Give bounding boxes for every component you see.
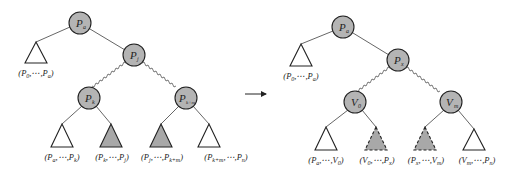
svg-text:0: 0 [358,103,361,109]
node-root: P a [332,16,354,38]
subtree-triangle [25,42,47,63]
spring-edge [406,67,440,92]
subtree-triangle [51,124,73,147]
spring-edge [142,62,176,87]
svg-text:P: P [338,21,346,33]
subtree-label: (Vm,⋯,Pn) [459,155,496,166]
node-right-child: P x [387,49,409,71]
node-right-grandchild: P k+m [175,87,197,109]
subtree-label: (Px,⋯,Vm) [408,155,445,166]
svg-text:P: P [129,49,137,61]
node-left-grandchild: P k [78,87,100,109]
subtree-label: (Pa,⋯,Pk) [45,152,80,163]
svg-text:P: P [178,92,186,104]
node-left-grandchild: V 0 [344,91,366,113]
left-tree: (P0,⋯,Pa) P a P j P k P k+m (Pa,⋯,Pk) (P… [18,12,248,163]
tree-transformation-diagram: (P0,⋯,Pa) P a P j P k P k+m (Pa,⋯,Pk) (P… [0,0,515,175]
svg-text:a: a [346,28,349,34]
subtree-triangle [290,44,312,66]
right-tree: (P0,⋯,Pa) P a P x V 0 V m (Pa,⋯,V0) (V0,… [283,16,495,166]
node-right-child: P j [123,44,145,66]
subtree-label: (P0,⋯,Pa) [283,71,318,82]
subtree-triangle [198,124,220,147]
svg-text:P: P [75,17,83,29]
svg-text:m: m [454,103,459,109]
subtree-label: (Pj,⋯,Pk+m) [141,152,183,163]
svg-text:a: a [83,24,86,30]
spring-edge [356,67,390,92]
subtree-triangle-dashed-shaded [365,127,387,150]
subtree-label: (Pk,⋯,Pj) [95,152,129,163]
subtree-triangle-dashed-shaded [414,127,436,150]
subtree-triangle-shaded [150,124,172,147]
subtree-label: (V0,⋯,Px) [360,155,395,166]
svg-text:k+m: k+m [186,100,196,105]
subtree-triangle [463,129,485,150]
subtree-triangle-shaded [100,124,122,147]
svg-text:x: x [400,61,404,67]
node-right-grandchild: V m [440,91,462,113]
svg-text:P: P [393,54,401,66]
subtree-triangle [315,127,337,150]
subtree-label: (Pk+m,⋯,Pn) [204,152,248,163]
spring-edge [92,62,126,87]
subtree-label: (P0,⋯,Pa) [18,68,53,79]
svg-text:k: k [92,99,95,105]
svg-text:P: P [84,92,92,104]
subtree-label: (Pa,⋯,V0) [308,155,343,166]
svg-text:j: j [136,56,139,62]
node-root: P a [69,12,91,34]
